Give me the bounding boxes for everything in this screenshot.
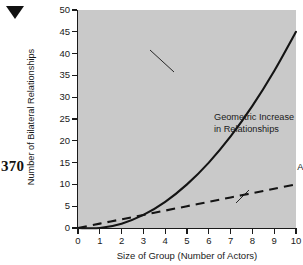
x-tick-label: 5 xyxy=(176,236,198,246)
y-tick xyxy=(72,31,77,32)
y-tick-label: 40 xyxy=(45,49,70,59)
y-tick xyxy=(72,184,77,185)
y-tick xyxy=(72,9,77,10)
x-tick-label: 4 xyxy=(154,236,176,246)
x-tick xyxy=(143,229,144,234)
x-tick xyxy=(99,229,100,234)
x-tick xyxy=(208,229,209,234)
x-tick-label: 6 xyxy=(198,236,220,246)
y-tick-label: 25 xyxy=(45,114,70,124)
y-tick-label: 45 xyxy=(45,27,70,37)
x-tick xyxy=(77,229,78,234)
x-tick xyxy=(230,229,231,234)
x-tick xyxy=(274,229,275,234)
y-tick-label: 35 xyxy=(45,70,70,80)
x-tick-label: 9 xyxy=(263,236,285,246)
y-tick-label: 10 xyxy=(45,179,70,189)
x-tick xyxy=(121,229,122,234)
y-tick xyxy=(72,162,77,163)
y-axis-line xyxy=(77,10,78,229)
down-triangle-icon xyxy=(6,6,24,19)
y-tick xyxy=(72,97,77,98)
x-tick xyxy=(252,229,253,234)
x-tick-label: 7 xyxy=(220,236,242,246)
figure-bilateral-relationships: 370 Geometric Increase in Relationships … xyxy=(0,0,303,265)
x-tick xyxy=(165,229,166,234)
leader-line-geometric xyxy=(150,50,174,72)
x-tick-label: 1 xyxy=(89,236,111,246)
y-tick-label: 30 xyxy=(45,92,70,102)
leader-line-arithmetic xyxy=(236,190,249,203)
y-tick xyxy=(72,75,77,76)
x-tick-label: 0 xyxy=(67,236,89,246)
y-tick xyxy=(72,227,77,228)
annotation-arithmetic: Arithmetic Increase in Number of Persons xyxy=(264,162,303,197)
x-tick-label: 8 xyxy=(241,236,263,246)
page-number: 370 xyxy=(1,158,24,175)
x-tick-label: 10 xyxy=(285,236,303,246)
x-tick-label: 3 xyxy=(132,236,154,246)
x-axis-title: Size of Group (Number of Actors) xyxy=(78,250,296,261)
y-tick xyxy=(72,118,77,119)
y-tick-label: 20 xyxy=(45,136,70,146)
y-tick-label: 50 xyxy=(45,5,70,15)
y-tick-label: 5 xyxy=(45,201,70,211)
y-tick-label: 15 xyxy=(45,158,70,168)
x-tick xyxy=(295,229,296,234)
y-tick xyxy=(72,206,77,207)
y-tick-label: 0 xyxy=(45,223,70,233)
annotation-geometric: Geometric Increase in Relationships xyxy=(214,112,294,135)
x-tick-label: 2 xyxy=(111,236,133,246)
y-tick xyxy=(72,140,77,141)
y-axis-title: Number of Bilateral Relationships xyxy=(26,17,36,217)
y-tick xyxy=(72,53,77,54)
x-tick xyxy=(186,229,187,234)
plot-area: Geometric Increase in Relationships Arit… xyxy=(78,10,296,228)
